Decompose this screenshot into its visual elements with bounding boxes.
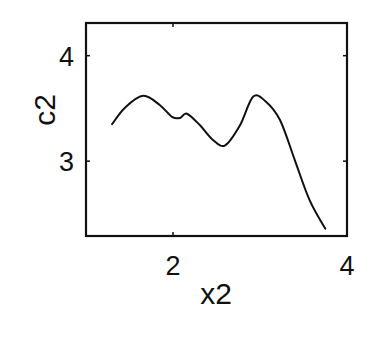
axis-ticks xyxy=(86,23,347,236)
y-axis-label: c2 xyxy=(28,94,61,126)
data-line xyxy=(112,95,325,228)
tick-labels: 2434 xyxy=(59,42,355,281)
plot-area xyxy=(86,23,347,236)
y-tick-label: 3 xyxy=(59,147,74,177)
y-tick-label: 4 xyxy=(59,42,74,72)
line-chart: 2434 x2 c2 xyxy=(0,0,374,339)
x-tick-label: 4 xyxy=(339,251,354,281)
x-axis-label: x2 xyxy=(200,277,232,310)
x-tick-label: 2 xyxy=(165,251,180,281)
